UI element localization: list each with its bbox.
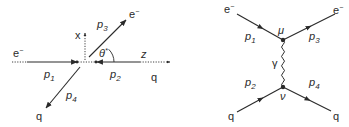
label-p1-right: p1: [244, 30, 256, 45]
cm-frame-diagram: e− p1 p2 q z x p3 e− θ* p4 q: [12, 8, 170, 122]
feynman-diagram: e− p1 μ p3 e− γ p2 ν p4 q q: [224, 3, 343, 122]
e-in-line: [237, 14, 283, 40]
label-q-out-right: q: [333, 110, 339, 122]
q-out-line: [283, 87, 331, 111]
label-p1: p1: [43, 68, 55, 83]
label-mu: μ: [277, 24, 284, 36]
scattering-diagrams: e− p1 p2 q z x p3 e− θ* p4 q e− p1 μ p3: [0, 0, 349, 127]
label-z-axis: z: [140, 48, 147, 60]
label-p2-right: p2: [244, 76, 256, 91]
label-gamma: γ: [272, 57, 278, 69]
q-in-line: [237, 87, 283, 112]
upper-vertex: [281, 38, 285, 42]
label-e-in: e−: [13, 47, 23, 59]
p2-tip-dot: [95, 61, 98, 64]
label-q-in: q: [151, 71, 157, 83]
label-nu: ν: [280, 90, 286, 102]
label-e-out: e−: [129, 8, 139, 20]
photon-propagator: [282, 40, 285, 87]
label-p4: p4: [65, 89, 77, 104]
lower-vertex: [281, 85, 285, 89]
label-p3: p3: [96, 18, 108, 33]
label-p3-right: p3: [308, 30, 320, 45]
label-e-out-right: e−: [333, 4, 343, 16]
theta-arc: [109, 49, 114, 62]
label-theta-star: θ*: [99, 47, 108, 59]
label-p2: p2: [109, 68, 121, 83]
label-e-in-right: e−: [224, 3, 234, 15]
label-q-out: q: [36, 110, 42, 122]
p1-tip-dot: [76, 61, 79, 64]
label-x-axis: x: [75, 29, 81, 41]
label-q-in-right: q: [228, 110, 234, 122]
label-p4-right: p4: [308, 76, 320, 91]
